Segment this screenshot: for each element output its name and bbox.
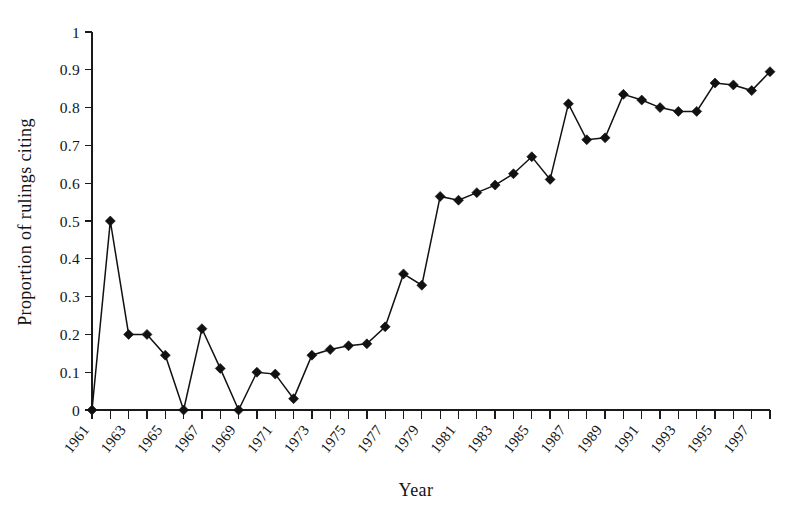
x-tick-label: 1995 — [684, 422, 716, 456]
x-tick-label: 1993 — [647, 422, 679, 456]
x-tick-label: 1975 — [317, 422, 349, 456]
x-tick-label: 1963 — [97, 422, 129, 456]
data-series-group — [87, 67, 775, 415]
y-axis-ticks — [85, 32, 92, 410]
x-tick-label: 1969 — [207, 422, 239, 456]
data-point-marker — [87, 405, 97, 415]
x-tick-label: 1989 — [574, 422, 606, 456]
x-tick-label: 1997 — [720, 422, 752, 456]
data-point-marker — [692, 106, 702, 116]
y-tick-label: 0.2 — [60, 326, 80, 343]
y-tick-label: 0.4 — [60, 250, 80, 267]
x-axis-tick-labels: 1961196319651967196919711973197519771979… — [61, 422, 752, 456]
y-tick-label: 0.5 — [60, 213, 80, 230]
data-point-marker — [563, 99, 573, 109]
data-point-marker — [325, 345, 335, 355]
y-tick-label: 0.8 — [60, 99, 80, 116]
data-point-marker — [399, 269, 409, 279]
data-point-marker — [582, 135, 592, 145]
data-point-marker — [435, 191, 445, 201]
y-tick-label: 0.3 — [60, 288, 80, 305]
data-point-marker — [728, 80, 738, 90]
x-axis-title: Year — [399, 480, 434, 500]
x-axis-group: 1961196319651967196919711973197519771979… — [61, 410, 770, 456]
data-point-marker — [252, 367, 262, 377]
y-axis-title: Proportion of rulings citing — [15, 118, 35, 326]
x-tick-label: 1985 — [501, 422, 533, 456]
data-point-marker — [618, 89, 628, 99]
data-point-marker — [673, 106, 683, 116]
data-point-marker — [105, 216, 115, 226]
x-tick-label: 1983 — [464, 422, 496, 456]
x-tick-label: 1965 — [134, 422, 166, 456]
x-tick-label: 1987 — [537, 422, 569, 456]
series-polyline — [92, 72, 770, 410]
data-point-marker — [453, 195, 463, 205]
y-tick-label: 0.9 — [60, 61, 80, 78]
data-point-marker — [179, 405, 189, 415]
line-chart-svg: 00.10.20.30.40.50.60.70.80.91 1961196319… — [0, 0, 793, 511]
data-point-marker — [124, 329, 134, 339]
data-point-marker — [417, 280, 427, 290]
data-point-marker — [197, 324, 207, 334]
x-tick-label: 1979 — [391, 422, 423, 456]
data-point-marker — [344, 341, 354, 351]
data-point-marker — [710, 78, 720, 88]
data-point-marker — [490, 180, 500, 190]
x-tick-label: 1961 — [61, 422, 93, 456]
chart-figure: 00.10.20.30.40.50.60.70.80.91 1961196319… — [0, 0, 793, 511]
x-tick-label: 1981 — [427, 422, 459, 456]
y-tick-label: 0.7 — [60, 137, 80, 154]
data-point-marker — [307, 350, 317, 360]
y-tick-label: 0.6 — [60, 175, 80, 192]
x-tick-label: 1991 — [611, 422, 643, 456]
x-tick-label: 1967 — [171, 422, 203, 456]
data-point-marker — [637, 95, 647, 105]
y-axis-tick-labels: 00.10.20.30.40.50.60.70.80.91 — [60, 24, 80, 419]
x-tick-label: 1977 — [354, 422, 386, 456]
y-tick-label: 0 — [72, 402, 80, 419]
data-point-marker — [600, 133, 610, 143]
y-tick-label: 0.1 — [60, 364, 80, 381]
data-point-marker — [215, 363, 225, 373]
x-axis-ticks — [92, 410, 770, 419]
data-point-marker — [655, 103, 665, 113]
x-tick-label: 1973 — [281, 422, 313, 456]
data-point-marker — [234, 405, 244, 415]
y-axis-group: 00.10.20.30.40.50.60.70.80.91 — [60, 24, 92, 419]
data-point-marker — [472, 188, 482, 198]
y-tick-label: 1 — [72, 24, 80, 41]
x-tick-label: 1971 — [244, 422, 276, 456]
